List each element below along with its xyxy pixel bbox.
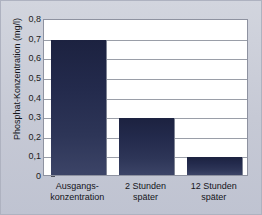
y-axis-tick-label: 0,8 [15,15,41,24]
bar [51,40,107,175]
bar [187,157,243,175]
x-axis-tick-label: Ausgangs-konzentration [43,180,111,213]
x-axis-tick-label-line: 12 Stunden [180,181,248,192]
x-axis-tick-label: 2 Stundenspäter [111,180,179,213]
y-axis-tick-label: 0,4 [15,94,41,103]
y-axis-tick-label: 0,3 [15,113,41,122]
y-axis-tick-label: 0,7 [15,35,41,44]
x-axis-tick-label-line: später [180,192,248,203]
chart-figure: Phosphat-Konzentration (mg/l) 0,80,70,60… [0,0,262,215]
y-axis-tick-mark [51,176,55,177]
y-axis-tick-label: 0,1 [15,152,41,161]
x-axis-tick-label-line: Ausgangs- [43,181,111,192]
bar-series [44,20,247,175]
x-axis-labels: Ausgangs-konzentration2 Stundenspäter12 … [43,180,248,213]
plot-area [43,19,248,176]
x-axis-tick-label-line: konzentration [43,192,111,203]
x-axis-tick-label: 12 Stundenspäter [180,180,248,213]
x-axis-tick-label-line: später [111,192,179,203]
y-axis-tick-label: 0,2 [15,133,41,142]
y-axis-tick-label: 0,6 [15,54,41,63]
y-axis-tick-label: 0,5 [15,74,41,83]
bar [119,118,175,175]
y-axis-tick-label: 0 [15,172,41,181]
y-axis-ticks: 0,80,70,60,50,40,30,20,10 [10,19,41,176]
x-axis-tick-label-line: 2 Stunden [111,181,179,192]
